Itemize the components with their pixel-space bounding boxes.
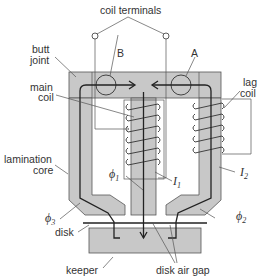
phi2-label: ϕ2	[236, 209, 246, 225]
lamination-core-label-2: core	[33, 164, 54, 176]
disk-label: disk	[55, 226, 74, 238]
lag-coil-label-2: coil	[240, 87, 256, 99]
i2-label: I2	[239, 165, 248, 181]
main-coil-label-2: coil	[38, 91, 54, 103]
point-b-label: B	[117, 47, 124, 59]
i1-label: I1	[172, 174, 181, 190]
disk-air-gap-label: disk air gap	[156, 264, 210, 276]
keeper-label: keeper	[66, 264, 99, 276]
butt-joint-label-2: joint	[29, 54, 49, 66]
phi1-label: ϕ1	[109, 167, 119, 183]
point-a-label: A	[191, 47, 198, 59]
phi3-label: ϕ3	[45, 211, 55, 227]
coil-terminals-label: coil terminals	[100, 4, 161, 16]
electromagnet-diagram: coil terminals butt joint main coil lag …	[0, 0, 269, 280]
keeper-block	[89, 228, 201, 253]
